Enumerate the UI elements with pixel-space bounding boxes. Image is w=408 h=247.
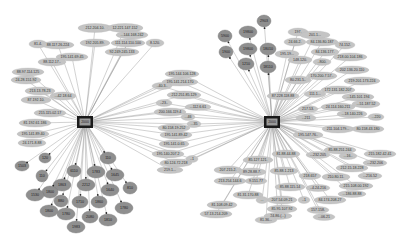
port-node[interactable]: 18110 xyxy=(260,61,276,73)
port-node[interactable]: 1640 xyxy=(101,184,119,196)
ip-node[interactable]: 211.104.179... xyxy=(322,125,354,133)
ip-node[interactable]: ...16.. xyxy=(339,153,357,160)
ip-node[interactable]: 192.205.89. xyxy=(80,39,110,47)
ip-node[interactable]: ...145.101.194 xyxy=(342,93,374,101)
ip-node[interactable]: 85.127.121. xyxy=(243,156,273,164)
ip-node[interactable]: 87.192.10. xyxy=(21,96,51,104)
ip-node[interactable]: 207.54.09.21 xyxy=(267,196,297,204)
ip-node[interactable]: 200.166.119.4 xyxy=(154,108,186,116)
ip-node[interactable]: 88.112.17.. xyxy=(38,58,66,66)
ip-node[interactable]: ..40.3.. xyxy=(152,83,172,90)
port-node[interactable]: 1780 xyxy=(57,208,75,220)
ip-node[interactable]: 80.124.72.218 xyxy=(160,159,192,167)
ip-node[interactable]: 85.88.115.14 xyxy=(275,183,305,191)
port-node[interactable]: 1983 xyxy=(67,221,85,233)
ip-node[interactable]: 111.114.110.100 xyxy=(111,39,145,47)
port-node[interactable]: 1530 xyxy=(26,189,44,201)
ip-node[interactable]: 170.200.7.57.. xyxy=(307,72,337,80)
ip-node[interactable]: 213.254.144.6 xyxy=(214,177,246,185)
ip-node[interactable]: 87.228.118.88 xyxy=(267,92,299,100)
hub-left[interactable]: 2000 xyxy=(77,116,93,128)
ip-node[interactable]: 80.231.5.. xyxy=(285,76,311,84)
port-node[interactable]: 1860 xyxy=(91,196,107,208)
port-node[interactable]: 810 xyxy=(123,182,137,194)
ip-node[interactable]: 215.182.42.41 xyxy=(364,150,396,158)
ip-node[interactable]: 172.131.182.207 xyxy=(321,86,355,94)
port-node[interactable]: 1800 xyxy=(42,186,58,198)
port-node[interactable]: 1780 xyxy=(115,202,133,214)
ip-node[interactable]: 84.136.80.187 xyxy=(306,38,338,46)
ip-node[interactable]: 219.1... xyxy=(157,167,183,174)
ip-node[interactable]: 89.28.88.7. xyxy=(238,168,266,176)
port-node[interactable]: 880 xyxy=(54,195,68,207)
ip-node[interactable]: 81.36... xyxy=(255,217,277,224)
ip-node[interactable]: ...112.6.61 xyxy=(185,104,211,111)
ip-node[interactable]: 80.158.43.180 xyxy=(352,125,384,133)
port-node[interactable]: 110 xyxy=(36,170,48,182)
ip-node[interactable]: 148.120. xyxy=(288,56,312,64)
ip-node[interactable]: 81.192.61.186 xyxy=(19,119,51,127)
port-node[interactable]: 19800 xyxy=(239,43,257,55)
ip-node[interactable]: 157.158. xyxy=(307,207,329,214)
port-node[interactable]: 18010 xyxy=(260,43,276,55)
ip-node[interactable]: 92.249.245.133 xyxy=(105,48,139,56)
ip-node[interactable]: ...144.168.242 xyxy=(116,31,148,39)
hub-right[interactable]: 2000 xyxy=(264,116,280,128)
ip-node[interactable]: ..800. xyxy=(313,59,331,66)
ip-node[interactable]: 24.28.151.92 xyxy=(11,76,41,84)
ip-node[interactable]: ...211 xyxy=(296,115,316,122)
ip-node[interactable]: 219.201.173.224 xyxy=(344,77,380,85)
ip-node[interactable]: ...220 xyxy=(368,114,384,121)
ip-node[interactable]: ...42.18.64 xyxy=(50,92,76,100)
ip-node[interactable]: 207.215.2. xyxy=(214,166,242,174)
ip-node[interactable]: 212.251.85.129 xyxy=(167,91,201,99)
ip-node[interactable]: 8.120. xyxy=(146,39,164,47)
ip-node[interactable]: ...18.140.226 xyxy=(337,110,367,118)
ip-node[interactable]: ...06.21 xyxy=(313,214,335,221)
port-node[interactable]: 1810 xyxy=(99,214,117,226)
ip-node[interactable]: 88.117.26.224 xyxy=(42,41,74,49)
ip-node[interactable]: 9.151.77 xyxy=(245,178,267,185)
ip-node[interactable]: ..23.. xyxy=(156,100,172,107)
ip-node[interactable]: 24.114.160.211 xyxy=(321,103,355,111)
ip-node[interactable]: 24.171.8.88 xyxy=(18,139,46,147)
ip-node[interactable]: ... xyxy=(256,197,268,204)
ip-node[interactable]: 217.53. xyxy=(298,106,318,113)
ip-node[interactable]: 88.97.114.125 xyxy=(12,68,44,76)
ip-node[interactable]: 213.13.78.23 xyxy=(25,87,55,95)
ip-node[interactable]: 195.140.207.2 xyxy=(152,150,184,158)
port-node[interactable]: 1783 xyxy=(87,166,105,178)
ip-node[interactable]: ..4.24.216 xyxy=(306,185,330,192)
port-node[interactable]: 2212 xyxy=(77,179,95,191)
port-node[interactable]: 1900 xyxy=(219,46,233,58)
port-node[interactable]: 1800 xyxy=(40,205,58,217)
ip-node[interactable]: 215.108.00.192 xyxy=(339,182,373,190)
port-node[interactable]: 110 xyxy=(100,152,116,164)
ip-node[interactable]: 111.1... xyxy=(304,91,326,98)
ip-node[interactable]: ...51.187.52 xyxy=(352,100,380,108)
ip-node[interactable]: 84.174.208.27 xyxy=(314,196,346,204)
port-node[interactable]: 1645 xyxy=(106,169,124,181)
ip-node[interactable]: ...186.88.88 xyxy=(338,191,366,198)
ip-node[interactable]: ...216.52 xyxy=(358,173,382,180)
ip-node[interactable]: 81.88.44.88 xyxy=(272,150,300,158)
ip-node[interactable]: ...232.205 xyxy=(306,152,330,159)
port-node[interactable]: 5900 xyxy=(218,30,232,42)
ip-node[interactable]: 218.657 xyxy=(299,173,321,180)
ip-node[interactable]: 81.108.09.42 xyxy=(207,201,237,209)
ip-node[interactable]: 212.15.18.228 xyxy=(336,164,368,172)
ip-node[interactable]: 218.00.104.186 xyxy=(333,53,367,61)
ip-node[interactable]: 85.95.107.92 xyxy=(267,205,297,213)
ip-node[interactable]: 195.141.89.40 xyxy=(17,130,49,138)
ip-node[interactable]: 85.88.1.213 xyxy=(270,167,298,175)
port-node[interactable]: 6110 xyxy=(67,165,81,177)
ip-node[interactable]: 84.136.177. xyxy=(311,48,339,56)
ip-node[interactable]: ...46 xyxy=(181,114,195,121)
ip-node[interactable]: 202.136.20.110 xyxy=(335,66,369,74)
ip-node[interactable]: 195.141.0.65 xyxy=(159,140,189,148)
ip-node[interactable]: 195.141.89.42 xyxy=(160,131,192,139)
ip-node[interactable]: ...35 xyxy=(187,121,201,128)
ip-node[interactable]: 57.13.214.209 xyxy=(200,210,232,218)
ip-node[interactable]: ...232.206 xyxy=(363,160,387,167)
port-node[interactable]: 1210 xyxy=(238,58,254,70)
